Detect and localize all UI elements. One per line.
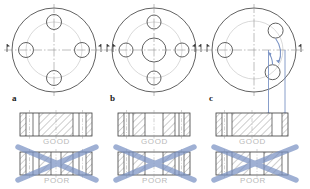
section-hatch — [163, 113, 175, 136]
section-hatch-edge — [216, 152, 222, 175]
section-arrow-left — [107, 44, 110, 52]
section-arrow-right — [198, 44, 201, 52]
section-arrow-left-inner — [113, 44, 116, 52]
flange-front-view-c — [204, 4, 305, 117]
section-good-c — [216, 110, 288, 139]
section-arrow-left — [207, 44, 210, 52]
section-arrow-right — [98, 44, 101, 52]
rotation-arrow-upper — [276, 39, 281, 64]
section-hatch-edge — [282, 113, 288, 136]
section-arrow-right-inner — [192, 44, 195, 52]
section-hatch — [133, 113, 145, 136]
section-hatch-edge — [118, 113, 124, 136]
column-label-b: b — [110, 94, 115, 103]
flange-front-view-a — [4, 4, 104, 96]
section-good-a — [20, 110, 92, 139]
section-arrow-left — [7, 44, 10, 52]
caption-good-b: GOOD — [141, 138, 168, 146]
caption-poor-c: POOR — [240, 177, 266, 185]
section-hatch-edge — [184, 152, 190, 175]
caption-poor-a: POOR — [44, 177, 70, 185]
flange-section-figure — [0, 0, 310, 189]
section-arrow-right — [298, 44, 301, 52]
section-hatch-edge — [184, 113, 190, 136]
section-good-b — [118, 110, 190, 139]
section-hatch-edge — [20, 113, 26, 136]
flange-front-view-b — [104, 4, 204, 96]
section-hatch-edge — [118, 152, 124, 175]
column-label-c: c — [209, 94, 213, 103]
caption-poor-b: POOR — [142, 177, 168, 185]
section-hatch-edge — [216, 113, 222, 136]
caption-good-c: GOOD — [239, 138, 266, 146]
section-hatch-edge — [86, 113, 92, 136]
section-hatch-edge — [86, 152, 92, 175]
section-hatch-edge — [20, 152, 26, 175]
caption-good-a: GOOD — [43, 138, 70, 146]
column-label-a: a — [12, 94, 17, 103]
